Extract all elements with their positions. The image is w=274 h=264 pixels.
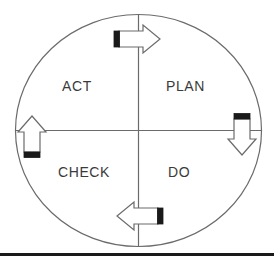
pdca-cycle-diagram: ACT PLAN CHECK DO bbox=[0, 0, 274, 264]
quadrant-label-act: ACT bbox=[62, 78, 92, 94]
arrow-left-body bbox=[117, 202, 158, 230]
arrow-up-body bbox=[18, 116, 46, 152]
quadrant-label-do: DO bbox=[168, 164, 190, 180]
arrow-down-body bbox=[228, 119, 256, 155]
quadrant-label-check: CHECK bbox=[58, 164, 110, 180]
arrow-up-icon bbox=[18, 116, 46, 158]
arrow-left-icon bbox=[117, 202, 163, 230]
arrow-right-body bbox=[119, 25, 160, 53]
arrow-down-icon bbox=[228, 114, 256, 156]
pdca-diagram-canvas bbox=[0, 0, 274, 264]
arrow-up-tail-bar bbox=[24, 152, 40, 158]
arrow-right-icon bbox=[114, 25, 160, 53]
arrow-left-tail-bar bbox=[158, 208, 164, 224]
arrow-down-tail-bar bbox=[234, 114, 250, 120]
quadrant-label-plan: PLAN bbox=[166, 78, 205, 94]
arrow-right-tail-bar bbox=[114, 31, 120, 47]
